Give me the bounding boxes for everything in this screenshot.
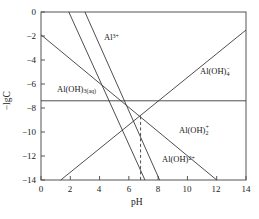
y-tick-label: 0 [14, 8, 36, 17]
series-label-al-oh-4-text: Al(OH) [200, 66, 226, 76]
x-tick-label: 4 [89, 185, 109, 194]
series-label-al-oh-1-charge: 2+ [188, 155, 194, 161]
x-tick-label: 0 [31, 185, 51, 194]
series-label-al-oh-1-text: Al(OH) [162, 154, 188, 164]
series-label-al-oh-3aq: Al(OH)3(aq) [57, 85, 96, 94]
x-tick-label: 2 [60, 185, 80, 194]
y-tick-label: −12 [14, 152, 36, 161]
y-tick-label: −4 [14, 56, 36, 65]
series-label-al3-text: Al [104, 32, 113, 42]
series-label-al-oh-3aq-text: Al(OH) [57, 84, 83, 94]
series-label-al3-charge: 3+ [113, 33, 119, 39]
x-tick-label: 8 [148, 185, 168, 194]
series-label-al-oh-1: Al(OH)2+ [162, 155, 195, 164]
y-axis-title-wrap: −lgC [1, 84, 15, 124]
y-tick-label: −8 [14, 104, 36, 113]
series-label-al3: Al3+ [104, 33, 119, 42]
y-tick-label: −6 [14, 80, 36, 89]
y-tick-label: −14 [14, 176, 36, 185]
y-tick-label: −2 [14, 32, 36, 41]
x-tick-label: 14 [236, 185, 256, 194]
x-tick-label: 10 [177, 185, 197, 194]
y-tick-label: −10 [14, 128, 36, 137]
y-axis-title: −lgC [3, 81, 13, 121]
plot-frame [41, 12, 246, 180]
x-tick-label: 6 [119, 185, 139, 194]
aluminium-speciation-diagram: 0 −2 −4 −6 −8 −10 −12 −14 0 2 4 6 8 10 1… [0, 0, 259, 219]
x-tick-label: 12 [206, 185, 226, 194]
series-label-al-oh-4-sub: 4 [226, 71, 229, 77]
x-axis-title: pH [131, 198, 143, 208]
series-label-al-oh-2: Al(OH)+2 [179, 126, 205, 135]
series-label-al-oh-2-sub: 2 [205, 130, 208, 136]
series-label-al-oh-2-text: Al(OH) [179, 125, 205, 135]
series-label-al-oh-3aq-sub: 3(aq) [83, 88, 96, 94]
series-label-al-oh-4: Al(OH)−4 [200, 67, 226, 76]
